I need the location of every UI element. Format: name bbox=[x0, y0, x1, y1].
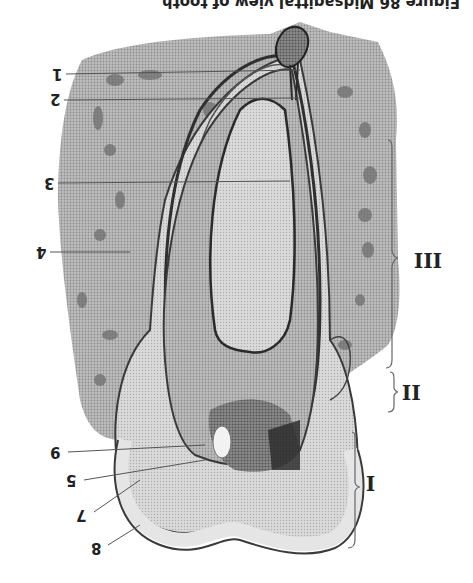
label-3: 3 bbox=[44, 175, 54, 190]
label-2: 2 bbox=[50, 91, 60, 106]
figure-caption: Figure 86 Midsagittal view of tooth bbox=[20, 0, 460, 11]
label-7: 7 bbox=[76, 507, 86, 522]
pulp-highlight bbox=[213, 426, 231, 458]
region-label-III: III bbox=[414, 250, 442, 270]
tooth-illustration bbox=[0, 0, 473, 583]
label-8: 8 bbox=[91, 540, 101, 555]
label-4: 4 bbox=[36, 244, 46, 259]
label-9: 9 bbox=[50, 444, 60, 459]
tooth-midsagittal-figure: Figure 86 Midsagittal view of tooth 1 2 … bbox=[0, 0, 473, 583]
region-label-I: I bbox=[366, 473, 375, 493]
label-1: 1 bbox=[52, 66, 62, 81]
region-label-II: II bbox=[402, 382, 421, 402]
label-5: 5 bbox=[66, 472, 76, 487]
